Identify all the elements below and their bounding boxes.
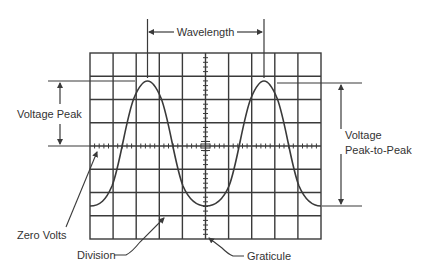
graticule-label: Graticule — [247, 250, 291, 262]
graticule-callout — [209, 238, 244, 256]
division-label: Division — [77, 249, 116, 261]
voltage-pp-label-line1: Voltage — [345, 129, 382, 141]
wavelength-label: Wavelength — [177, 26, 235, 38]
division-callout — [114, 218, 164, 255]
oscilloscope-diagram: Wavelength Voltage Peak Voltage Peak-to-… — [0, 0, 428, 271]
zero-volts-label: Zero Volts — [17, 229, 67, 241]
voltage-pp-label-line2: Peak-to-Peak — [345, 144, 412, 156]
voltage-peak-label: Voltage Peak — [17, 108, 82, 120]
